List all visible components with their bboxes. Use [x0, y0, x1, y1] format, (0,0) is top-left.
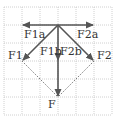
label-f: F	[48, 98, 56, 111]
label-f2a: F2a	[77, 28, 99, 41]
force-diagram: F1a F2a F1 F2 F1b F2b F	[0, 0, 115, 121]
label-f1: F1	[8, 49, 23, 62]
label-f2b: F2b	[60, 45, 82, 58]
label-f1b: F1b	[40, 45, 62, 58]
label-f2: F2	[97, 49, 112, 62]
label-f1a: F1a	[24, 28, 46, 41]
